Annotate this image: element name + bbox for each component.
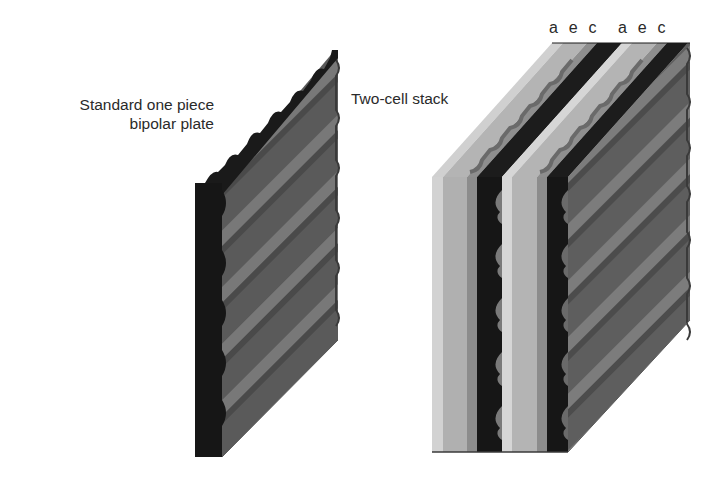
cell1-electrolyte — [443, 177, 467, 452]
fuel-cell-diagram — [0, 0, 726, 477]
cell2-anode — [502, 177, 512, 452]
two-cell-stack — [432, 43, 690, 452]
cell2-electrolyte — [512, 177, 537, 452]
cell1-anode — [432, 177, 443, 452]
plate-front-face — [195, 183, 226, 457]
plate-side-face — [222, 50, 338, 457]
cell2-cathode — [537, 177, 547, 452]
bipolar-plate — [195, 50, 339, 457]
cell1-cathode — [467, 177, 477, 452]
